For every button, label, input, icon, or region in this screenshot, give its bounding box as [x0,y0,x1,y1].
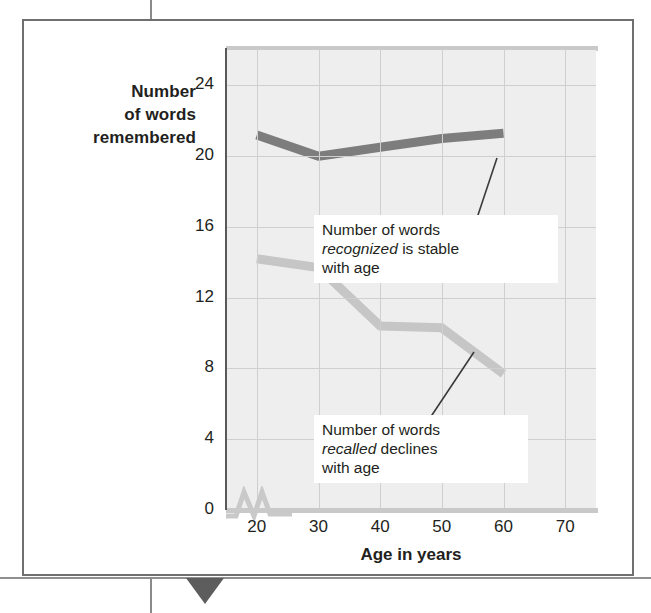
callout-recalled-line-1: Number of words [322,420,520,439]
callout-recalled-line-3: with age [322,458,520,477]
y-axis-caption-line-2: of words [28,103,196,126]
callout-recognized-line-3: with age [322,258,550,277]
y-tick-label-12: 12 [174,287,214,307]
y-axis-caption-line-3: remembered [28,126,196,149]
callout-recalled: Number of words recalled declines with a… [314,415,528,483]
gridline-vertical [565,50,566,510]
x-tick-label-50: 50 [417,517,467,537]
y-axis-line [225,48,227,510]
y-axis-caption: Number of words remembered [28,80,196,149]
x-tick-label-70: 70 [540,517,590,537]
axis-break-icon [222,486,292,520]
callout-recalled-emphasis: recalled [322,440,376,457]
y-tick-label-4: 4 [174,428,214,448]
callout-recalled-line-2: recalled declines [322,439,520,458]
page-rule-bottom [150,578,152,613]
y-tick-label-0: 0 [174,499,214,519]
callout-recognized: Number of words recognized is stable wit… [314,215,558,283]
x-tick-label-30: 30 [294,517,344,537]
callout-recognized-line-2-rest: is stable [398,240,459,257]
pointer-triangle-icon [186,578,224,604]
x-tick-label-40: 40 [355,517,405,537]
gridline-vertical [257,50,258,510]
callout-recognized-line-2: recognized is stable [322,239,550,258]
gridline-horizontal [226,298,596,299]
y-tick-label-16: 16 [174,216,214,236]
y-tick-label-20: 20 [174,145,214,165]
y-tick-label-8: 8 [174,357,214,377]
gridline-horizontal [226,368,596,369]
x-tick-label-60: 60 [479,517,529,537]
page-divider-line [0,577,651,579]
x-tick-label-20: 20 [232,517,282,537]
y-tick-label-24: 24 [174,74,214,94]
gridline-horizontal [226,156,596,157]
callout-recognized-emphasis: recognized [322,240,398,257]
gridline-horizontal [226,85,596,86]
callout-recognized-line-1: Number of words [322,220,550,239]
x-axis-label: Age in years [226,545,596,565]
y-axis-caption-line-1: Number [28,80,196,103]
callout-recalled-line-2-rest: declines [376,440,437,457]
figure-root: Number of words remembered 04812162024 2… [0,0,651,613]
